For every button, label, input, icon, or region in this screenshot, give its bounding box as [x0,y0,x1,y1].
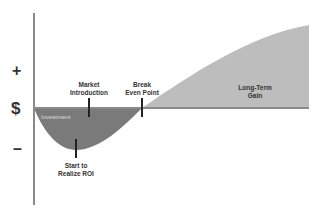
minus-symbol: – [13,140,22,158]
long-term-gain-area [142,25,309,108]
break-even-label: Break Even Point [117,81,167,97]
plus-symbol: + [12,62,21,80]
dollar-symbol: $ [11,99,20,119]
long-term-gain-label: Long-Term Gain [230,84,280,100]
market-introduction-label: Market Introduction [62,81,116,97]
roi-chart [0,0,323,218]
realize-roi-label: Start to Realize ROI [51,162,101,178]
investment-label: Investment [41,113,70,121]
